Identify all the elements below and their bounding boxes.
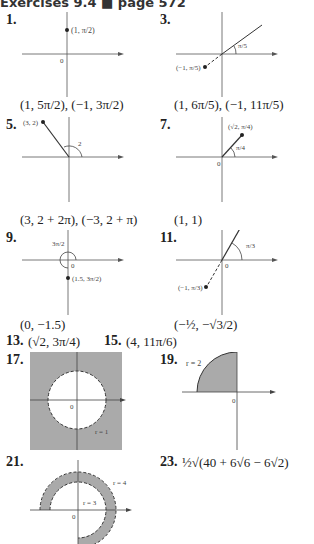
polar-plot-7: π/4 (√2, π/4) 0 [172, 117, 282, 202]
exercise-number: 15. [104, 333, 122, 349]
exercise-number: 5. [6, 117, 17, 133]
polar-plot-1: (1, π/2) 0 [18, 12, 128, 97]
svg-text:r = 1: r = 1 [95, 428, 109, 436]
svg-text:0: 0 [72, 513, 76, 521]
svg-text:0: 0 [60, 57, 64, 65]
svg-text:π/4: π/4 [236, 144, 245, 152]
exercise-answer: ½√(40 + 6√6 − 6√2) [182, 455, 288, 471]
svg-text:0: 0 [70, 403, 74, 411]
exercise-number: 19. [160, 352, 178, 368]
exercise-number: 1. [6, 12, 17, 28]
exercise-number: 17. [6, 352, 24, 368]
exercise-answer: (√2, 3π/4) [28, 334, 80, 350]
exercise-number: 7. [160, 117, 171, 133]
svg-text:0: 0 [232, 397, 236, 405]
polar-plot-11: π/3 0 (−1, π/3) [172, 230, 282, 315]
polar-plot-9: 3π/2 0 (1.5, 3π/2) [18, 230, 128, 315]
exercise-answer: (4, 11π/6) [126, 334, 177, 350]
polar-plot-5: 2 (3, 2) [18, 117, 128, 202]
svg-text:π/5: π/5 [238, 42, 247, 50]
svg-text:3π/2: 3π/2 [52, 240, 65, 248]
exercise-answer: (−½, −√3/2) [174, 317, 237, 333]
svg-text:(−1, π/5): (−1, π/5) [176, 64, 201, 72]
svg-text:(1.5, 3π/2): (1.5, 3π/2) [72, 275, 102, 283]
exercise-number: 13. [6, 333, 24, 349]
exercise-number: 9. [6, 230, 17, 246]
exercise-answer: (3, 2 + 2π), (−3, 2 + π) [20, 212, 137, 228]
exercise-answer: (1, 6π/5), (−1, 11π/5) [174, 97, 284, 113]
svg-text:r = 3: r = 3 [83, 499, 97, 507]
svg-text:(1, π/2): (1, π/2) [71, 26, 95, 35]
polar-plot-3: π/5 (−1, π/5) [172, 12, 282, 97]
svg-text:r = 4: r = 4 [113, 479, 127, 487]
svg-text:0: 0 [225, 262, 229, 270]
exercise-number: 23. [160, 454, 178, 470]
polar-region-17: 0 r = 1 [30, 352, 130, 450]
polar-region-21: 0 r = 4 r = 3 [28, 460, 138, 544]
exercise-answer: (1, 5π/2), (−1, 3π/2) [20, 97, 124, 113]
exercise-number: 21. [6, 454, 24, 470]
exercise-answer: (1, 1) [174, 212, 202, 228]
svg-text:0: 0 [217, 160, 221, 168]
page-header: Exercises 9.4 ■ page 572 [0, 0, 186, 10]
svg-text:r = 2: r = 2 [186, 359, 201, 368]
svg-text:π/3: π/3 [246, 242, 255, 250]
svg-text:(−1, π/3): (−1, π/3) [178, 284, 203, 292]
svg-text:2: 2 [78, 140, 82, 148]
exercise-answer: (0, −1.5) [20, 317, 65, 333]
svg-text:(3, 2): (3, 2) [23, 119, 39, 127]
polar-region-19: 0 r = 2 [182, 352, 282, 450]
svg-text:0: 0 [71, 262, 75, 270]
exercise-number: 3. [160, 12, 171, 28]
svg-text:(√2, π/4): (√2, π/4) [228, 123, 253, 131]
